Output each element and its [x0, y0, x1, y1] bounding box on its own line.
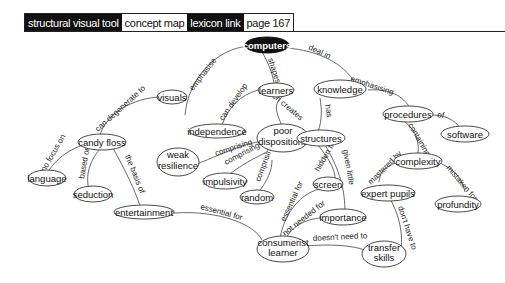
node-software[interactable]: software — [441, 126, 489, 142]
svg-text:complexity: complexity — [396, 156, 441, 167]
link-label: deal in — [307, 43, 332, 61]
node-seduction[interactable]: seduction — [73, 186, 114, 202]
node-visuals[interactable]: visuals — [157, 90, 187, 104]
svg-text:independence: independence — [187, 126, 247, 137]
svg-text:learners: learners — [259, 85, 294, 96]
link-knowledge-structures — [318, 98, 321, 132]
svg-text:knowledge: knowledge — [317, 84, 362, 95]
link-label: essential for — [199, 202, 243, 222]
svg-text:skills: skills — [374, 252, 395, 263]
link-consumerist-transfer — [306, 245, 365, 250]
svg-text:structures: structures — [300, 133, 342, 144]
link-label: has — [323, 104, 334, 118]
node-consumerist-learner[interactable]: consumerist learner — [257, 236, 309, 262]
link-label: doesn't need to — [313, 231, 368, 243]
node-structures[interactable]: structures — [297, 130, 345, 146]
node-weak-resilience[interactable]: weak resilience — [157, 148, 199, 176]
node-learners[interactable]: learners — [258, 83, 294, 97]
svg-text:impulsivity: impulsivity — [203, 176, 247, 187]
svg-text:profundity: profundity — [437, 199, 479, 210]
svg-text:poor: poor — [273, 125, 292, 136]
node-random[interactable]: random — [240, 190, 274, 204]
svg-text:learner: learner — [268, 247, 298, 258]
svg-text:importance: importance — [320, 212, 367, 223]
svg-text:entertainment: entertainment — [115, 207, 173, 218]
svg-text:visuals: visuals — [157, 92, 186, 103]
svg-text:resilience: resilience — [158, 160, 198, 171]
svg-text:screen: screen — [314, 179, 343, 190]
node-screen[interactable]: screen — [313, 177, 343, 191]
node-knowledge[interactable]: knowledge — [314, 80, 366, 98]
node-profundity[interactable]: profundity — [435, 196, 481, 212]
svg-text:expert pupils: expert pupils — [361, 188, 415, 199]
node-importance[interactable]: importance — [320, 209, 367, 225]
svg-text:language: language — [27, 173, 66, 184]
link-label: given little — [341, 149, 356, 186]
node-language[interactable]: language — [27, 170, 66, 186]
link-label: of — [437, 110, 446, 120]
svg-text:software: software — [447, 129, 483, 140]
link-label: shapes — [266, 57, 283, 84]
node-procedures[interactable]: procedures — [383, 106, 433, 122]
node-impulsivity[interactable]: impulsivity — [203, 173, 247, 189]
link-label: no focus on — [39, 133, 67, 173]
node-complexity[interactable]: complexity — [394, 153, 442, 169]
svg-text:candy floss: candy floss — [78, 137, 126, 148]
svg-text:random: random — [241, 192, 273, 203]
node-transfer-skills[interactable]: transfer skills — [362, 241, 406, 267]
node-computers[interactable]: computers — [243, 37, 292, 53]
svg-text:computers: computers — [243, 40, 292, 51]
link-expertpupils-transfer — [388, 195, 402, 248]
link-entertainment-consumerist — [174, 213, 262, 240]
link-label: emphasise — [187, 56, 218, 92]
link-label: based on — [77, 145, 92, 179]
link-label: containing — [406, 122, 432, 158]
svg-text:seduction: seduction — [73, 189, 114, 200]
svg-text:weak: weak — [166, 149, 189, 160]
node-entertainment[interactable]: entertainment — [114, 205, 174, 219]
node-expert-pupils[interactable]: expert pupils — [361, 185, 415, 201]
link-label: can develop — [217, 81, 249, 122]
svg-text:procedures: procedures — [384, 109, 432, 120]
node-candy-floss[interactable]: candy floss — [78, 134, 126, 150]
link-label: can degenerate to — [93, 83, 147, 133]
node-independence[interactable]: independence — [187, 124, 247, 138]
concept-map: emphasise shapes deal in can degenerate … — [0, 0, 505, 283]
